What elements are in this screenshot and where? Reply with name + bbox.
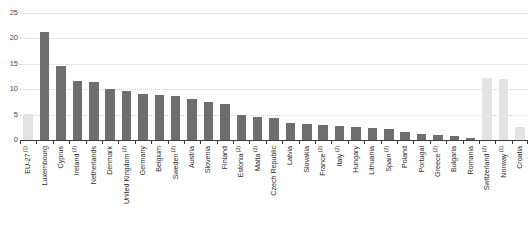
bar bbox=[482, 78, 492, 140]
tick-slot bbox=[266, 140, 282, 145]
bar-slot bbox=[20, 13, 36, 140]
bar-chart: 0510152025 EU-27 (1)LuxembourgCyprusIrel… bbox=[0, 0, 531, 233]
bar-slot bbox=[118, 13, 134, 140]
footnote-marker: (2) bbox=[121, 146, 127, 154]
x-axis-category-label: Poland bbox=[402, 146, 409, 168]
footnote-marker: (2) bbox=[432, 146, 438, 154]
tick-mark bbox=[479, 140, 480, 144]
label-slot: Italy (2) bbox=[331, 146, 347, 233]
bar-slot bbox=[495, 13, 511, 140]
bar-slot bbox=[512, 13, 528, 140]
bar-slot bbox=[86, 13, 102, 140]
x-axis-category-label: Hungary bbox=[352, 146, 359, 173]
footnote-marker: (1) bbox=[22, 146, 28, 154]
x-axis-category-label: Luxembourg bbox=[41, 146, 48, 185]
footnote-marker: (2) bbox=[383, 146, 389, 154]
x-axis-category-label: Austria bbox=[188, 146, 195, 168]
tick-mark bbox=[36, 140, 37, 144]
tick-slot bbox=[299, 140, 315, 145]
tick-slot bbox=[397, 140, 413, 145]
footnote-marker: (2) bbox=[71, 146, 77, 154]
bar bbox=[220, 104, 230, 140]
tick-slot bbox=[200, 140, 216, 145]
tick-mark bbox=[266, 140, 267, 144]
tick-slot bbox=[282, 140, 298, 145]
label-slot: France (2) bbox=[315, 146, 331, 233]
tick-slot bbox=[86, 140, 102, 145]
x-axis-category-label: Italy (2) bbox=[336, 146, 343, 167]
tick-slot bbox=[151, 140, 167, 145]
tick-slot bbox=[348, 140, 364, 145]
tick-mark bbox=[446, 140, 447, 144]
bar-slot bbox=[364, 13, 380, 140]
tick-mark bbox=[20, 140, 21, 144]
footnote-marker: (2) bbox=[481, 146, 487, 154]
bar-slot bbox=[135, 13, 151, 140]
y-axis-tick-label: 15 bbox=[2, 60, 18, 68]
label-slot: Cyprus bbox=[53, 146, 69, 233]
label-slot: Germany bbox=[135, 146, 151, 233]
x-axis-category-label: Croatia bbox=[516, 146, 523, 169]
tick-slot bbox=[331, 140, 347, 145]
bar bbox=[368, 128, 378, 140]
tick-slot bbox=[364, 140, 380, 145]
label-slot: Spain (2) bbox=[381, 146, 397, 233]
tick-mark bbox=[381, 140, 382, 144]
tick-mark bbox=[86, 140, 87, 144]
tick-slot bbox=[495, 140, 511, 145]
label-slot: Norway (1) bbox=[495, 146, 511, 233]
tick-slot bbox=[217, 140, 233, 145]
footnote-marker: (2) bbox=[334, 146, 340, 154]
bar-slot bbox=[168, 13, 184, 140]
x-axis-category-label: Cyprus bbox=[57, 146, 64, 168]
bar bbox=[384, 129, 394, 140]
x-axis-category-label: Belgium bbox=[156, 146, 163, 172]
tick-mark bbox=[527, 140, 528, 144]
tick-slot bbox=[315, 140, 331, 145]
y-axis-tick-label: 25 bbox=[2, 9, 18, 17]
label-slot: Croatia bbox=[512, 146, 528, 233]
x-axis-category-label: Czech Republic bbox=[270, 146, 277, 196]
tick-mark bbox=[200, 140, 201, 144]
tick-mark bbox=[102, 140, 103, 144]
label-slot: Greece (2) bbox=[430, 146, 446, 233]
label-slot: Lithuania bbox=[364, 146, 380, 233]
y-axis-tick-label: 0 bbox=[2, 136, 18, 144]
tick-mark bbox=[413, 140, 414, 144]
label-slot: Estonia (2) bbox=[233, 146, 249, 233]
x-axis-category-label: Finland bbox=[221, 146, 228, 169]
x-axis-category-label: Slovakia bbox=[303, 146, 310, 173]
y-axis-tick-labels: 0510152025 bbox=[0, 13, 18, 140]
x-axis-category-label: Germany bbox=[139, 146, 146, 175]
label-slot: Bulgaria bbox=[446, 146, 462, 233]
label-slot: Belgium bbox=[151, 146, 167, 233]
x-axis-category-label: Spain (2) bbox=[385, 146, 392, 172]
label-slot: Poland bbox=[397, 146, 413, 233]
x-axis-category-label: Ireland (2) bbox=[74, 146, 81, 175]
bar-slot bbox=[348, 13, 364, 140]
x-axis-labels: EU-27 (1)LuxembourgCyprusIreland (2)Neth… bbox=[20, 146, 528, 233]
tick-slot bbox=[135, 140, 151, 145]
bar bbox=[253, 117, 263, 140]
x-axis-category-label: Denmark bbox=[107, 146, 114, 175]
bars-container bbox=[20, 13, 528, 140]
bar-slot bbox=[430, 13, 446, 140]
tick-slot bbox=[168, 140, 184, 145]
label-slot: Netherlands bbox=[86, 146, 102, 233]
bar bbox=[105, 89, 115, 140]
tick-mark bbox=[118, 140, 119, 144]
bar bbox=[138, 94, 148, 140]
tick-slot bbox=[446, 140, 462, 145]
x-axis-category-label: Bulgaria bbox=[451, 146, 458, 172]
tick-mark bbox=[315, 140, 316, 144]
tick-mark bbox=[348, 140, 349, 144]
bar bbox=[89, 82, 99, 140]
x-axis-category-label: Romania bbox=[467, 146, 474, 174]
bar bbox=[155, 95, 165, 140]
x-axis-category-label: Switzerland (2) bbox=[484, 146, 491, 190]
footnote-marker: (2) bbox=[317, 146, 323, 154]
x-axis-category-label: Slovenia bbox=[205, 146, 212, 173]
tick-mark bbox=[151, 140, 152, 144]
tick-mark bbox=[463, 140, 464, 144]
tick-slot bbox=[430, 140, 446, 145]
